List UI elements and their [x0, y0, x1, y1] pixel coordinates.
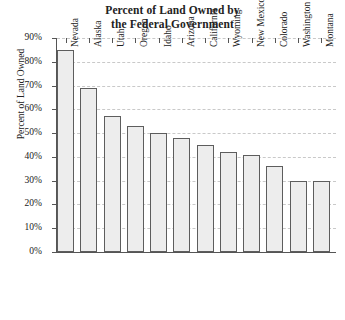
x-axis-tick — [228, 38, 229, 43]
bar — [80, 88, 97, 252]
bar — [57, 50, 74, 252]
y-axis-tick-label: 40% — [8, 152, 42, 162]
gridline — [57, 62, 336, 63]
x-axis-tick-label: Arizona — [186, 16, 196, 47]
x-axis-tick — [112, 38, 113, 43]
y-axis-tick-label: 10% — [8, 223, 42, 233]
bar — [313, 181, 330, 252]
bar — [266, 166, 283, 252]
x-axis-tick-label: Utah — [116, 29, 126, 47]
bar — [173, 138, 190, 252]
x-axis-tick-label: Montana — [325, 13, 335, 47]
y-axis-tick-label: 60% — [8, 104, 42, 114]
x-axis-tick-label: Colorado — [279, 12, 289, 47]
x-axis-tick — [66, 38, 67, 43]
gridline — [57, 133, 336, 134]
bar — [243, 155, 260, 252]
x-axis-tick — [89, 38, 90, 43]
gridline — [57, 86, 336, 87]
y-axis-tick-label: 90% — [8, 33, 42, 43]
x-axis-tick — [135, 38, 136, 43]
x-axis-tick-label: California — [209, 8, 219, 47]
y-axis-tick-label: 0% — [8, 247, 42, 257]
x-axis-tick — [275, 38, 276, 43]
bar — [197, 145, 214, 252]
x-axis-tick — [182, 38, 183, 43]
x-axis-tick — [252, 38, 253, 43]
bar — [104, 116, 121, 252]
plot-area: 0%10%20%30%40%50%60%70%80%90% NevadaAlas… — [56, 38, 336, 253]
y-axis-tick-label: 80% — [8, 57, 42, 67]
bar — [290, 181, 307, 252]
x-axis-tick-label: Alaska — [93, 21, 103, 47]
y-axis-title: Percent of Land Owned — [16, 24, 26, 164]
x-axis-tick-label: Idaho — [163, 25, 173, 47]
gridline — [57, 109, 336, 110]
y-axis-tick-label: 20% — [8, 199, 42, 209]
bar — [127, 126, 144, 252]
x-axis-tick-label: Wyoming — [232, 10, 242, 47]
y-axis-tick-label: 50% — [8, 128, 42, 138]
x-axis-tick-label: Washington — [302, 2, 312, 47]
x-axis-tick-label: Oregon — [139, 19, 149, 48]
bar — [220, 152, 237, 252]
bar-chart: Percent of Land Owned by the Federal Gov… — [0, 0, 345, 320]
x-axis-tick — [205, 38, 206, 43]
y-axis-tick-label: 30% — [8, 176, 42, 186]
x-axis-tick-label: Nevada — [70, 18, 80, 47]
bar — [150, 133, 167, 252]
x-axis-tick — [321, 38, 322, 43]
chart-title-line-1: Percent of Land Owned by — [105, 4, 239, 16]
x-axis-tick — [159, 38, 160, 43]
x-axis-tick-label: New Mexico — [256, 0, 266, 47]
y-axis-tick — [52, 252, 57, 253]
y-axis-tick-label: 70% — [8, 81, 42, 91]
y-axis-tick — [52, 38, 57, 39]
x-axis-tick — [298, 38, 299, 43]
